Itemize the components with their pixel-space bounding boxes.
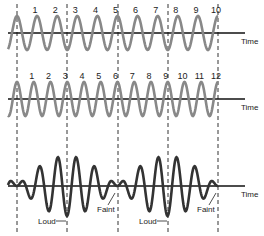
cycle-number-label: 7 — [153, 5, 158, 15]
faint-label-1: Faint — [97, 205, 116, 214]
wave-2-panel: 123456789101112 Time — [8, 71, 259, 116]
cycle-number-label: 9 — [163, 71, 168, 81]
beats-diagram: 12345678910 Time 123456789101112 Time Ti… — [0, 0, 264, 236]
faint-pointer-1 — [108, 193, 115, 205]
cycle-number-label: 12 — [211, 71, 221, 81]
cycle-number-label: 9 — [193, 5, 198, 15]
cycle-number-label: 10 — [177, 71, 187, 81]
cycle-number-label: 3 — [73, 5, 78, 15]
time-axis-label: Time — [241, 190, 259, 199]
resultant-panel: Time Loud Faint Loud Faint — [8, 157, 259, 226]
time-axis-label: Time — [241, 37, 259, 46]
cycle-number-label: 6 — [113, 71, 118, 81]
cycle-number-label: 4 — [79, 71, 84, 81]
cycle-number-label: 11 — [195, 71, 204, 81]
cycle-number-label: 6 — [133, 5, 138, 15]
cycle-number-label: 1 — [33, 5, 38, 15]
cycle-number-label: 4 — [93, 5, 98, 15]
cycle-number-label: 2 — [46, 71, 51, 81]
cycle-number-label: 10 — [211, 5, 221, 15]
wave-2-cycle-labels: 123456789101112 — [29, 71, 221, 81]
cycle-number-label: 5 — [96, 71, 101, 81]
loud-label-2: Loud — [139, 217, 157, 226]
diagram-canvas: 12345678910 Time 123456789101112 Time Ti… — [0, 0, 264, 236]
faint-label-2: Faint — [197, 205, 216, 214]
faint-pointer-2 — [209, 193, 216, 205]
cycle-number-label: 8 — [146, 71, 151, 81]
cycle-number-label: 1 — [29, 71, 34, 81]
cycle-number-label: 3 — [63, 71, 68, 81]
cycle-number-label: 8 — [173, 5, 178, 15]
cycle-number-label: 7 — [130, 71, 135, 81]
time-axis-label: Time — [241, 103, 259, 112]
loud-label-1: Loud — [38, 217, 56, 226]
wave-1-panel: 12345678910 Time — [8, 5, 259, 50]
cycle-number-label: 5 — [113, 5, 118, 15]
wave-1-cycle-labels: 12345678910 — [33, 5, 221, 15]
cycle-number-label: 2 — [53, 5, 58, 15]
